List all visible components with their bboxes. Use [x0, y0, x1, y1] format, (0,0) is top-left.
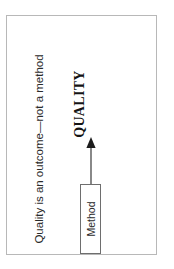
diagram-target-node-label: QUALITY [72, 64, 88, 144]
diagram-source-node: Method [80, 184, 101, 254]
page-title: Quality is an outcome—not a method [32, 39, 46, 259]
diagram-source-node-label: Method [84, 184, 98, 254]
arrow-up-icon [81, 134, 101, 188]
flow-arrow-icon [81, 134, 101, 188]
slide-frame: Quality is an outcome—not a method QUALI… [6, 15, 157, 255]
